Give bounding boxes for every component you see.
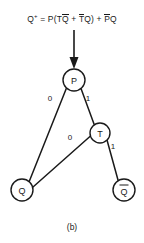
input-arrow-head <box>70 57 79 69</box>
boolean-equation: Q+ = P(TQ + TQ) + PQ <box>0 14 144 24</box>
node-q-label: Q <box>18 186 25 196</box>
equation-term-p-open: P(T <box>48 14 62 24</box>
node-qbar-label: Q <box>120 187 127 197</box>
input-arrow <box>70 30 79 69</box>
edge-label-p-1: 1 <box>86 94 91 103</box>
equation-equals: = <box>40 14 45 24</box>
node-p[interactable]: P <box>63 69 85 91</box>
node-t[interactable]: T <box>90 123 110 143</box>
equation-plus-2: + <box>97 14 102 24</box>
equation-qbar-1: Q <box>62 14 69 24</box>
node-qbar[interactable]: Q <box>113 179 135 201</box>
equation-lhs-superscript: + <box>34 13 38 19</box>
decision-graph: 0 1 0 1 P T Q Q <box>0 0 144 243</box>
node-q[interactable]: Q <box>11 179 33 201</box>
equation-q-final: Q <box>110 14 117 24</box>
figure-caption: (b) <box>0 222 144 232</box>
edge-label-t-1: 1 <box>111 142 116 151</box>
node-t-label: T <box>97 129 103 139</box>
binary-decision-diagram-figure: Q+ = P(TQ + TQ) + PQ 0 1 0 1 P <box>0 0 144 243</box>
equation-lhs: Q <box>27 14 34 24</box>
edge-label-t-0: 0 <box>68 133 73 142</box>
equation-q-close: Q) <box>84 14 94 24</box>
edge-label-p-0: 0 <box>48 94 53 103</box>
edge-t-to-q <box>33 136 91 187</box>
node-p-label: P <box>71 76 77 86</box>
equation-plus-1: + <box>71 14 76 24</box>
